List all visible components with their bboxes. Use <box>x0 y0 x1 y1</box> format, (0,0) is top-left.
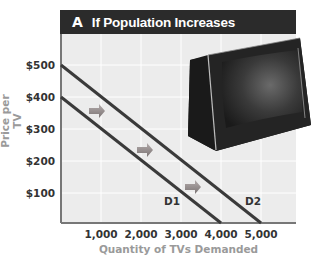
x-tick-label: 5,000 <box>239 228 283 240</box>
x-axis-title: Quantity of TVs Demanded <box>61 243 296 255</box>
y-tick-label: $400 <box>19 91 55 103</box>
y-tick-label: $300 <box>19 123 55 135</box>
y-axis-title: Price per TV <box>0 86 23 156</box>
x-tick-label: 2,000 <box>119 228 163 240</box>
curve-label-d1: D1 <box>164 195 180 207</box>
panel-letter: A <box>72 14 83 30</box>
x-tick-label: 1,000 <box>79 228 123 240</box>
x-tick-label: 4,000 <box>199 228 243 240</box>
y-tick-label: $200 <box>19 155 55 167</box>
y-tick-label: $500 <box>19 59 55 71</box>
curve-label-d2: D2 <box>245 195 261 207</box>
chart-title: If Population Increases <box>92 15 235 30</box>
x-tick-label: 3,000 <box>159 228 203 240</box>
chart-title-bar: AIf Population Increases <box>60 10 296 34</box>
y-tick-label: $100 <box>19 187 55 199</box>
